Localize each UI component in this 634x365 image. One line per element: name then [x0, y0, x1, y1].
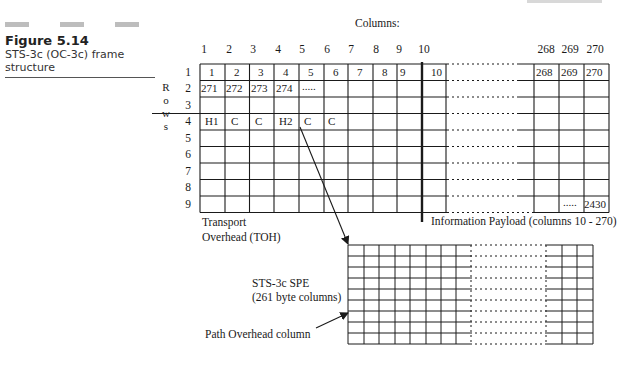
path-overhead-label: Path Overhead column [205, 328, 310, 340]
cell: 3 [258, 66, 264, 78]
arrow-path-overhead [316, 313, 348, 328]
frame-grid [0, 0, 634, 365]
cell: C [304, 115, 311, 127]
cell: 10 [431, 66, 442, 78]
cell: 268 [536, 66, 553, 78]
cell: C [231, 115, 238, 127]
cell: ..... [302, 80, 316, 92]
cell: 274 [276, 82, 293, 94]
payload-label: Information Payload (columns 10 - 270) [431, 215, 617, 227]
toh-label: Transport Overhead (TOH) [202, 215, 281, 245]
cell: 2430 [584, 198, 606, 210]
cell: 1 [209, 66, 215, 78]
cell: 273 [251, 82, 268, 94]
cell: C [328, 115, 335, 127]
cell: 6 [333, 66, 339, 78]
cell: 7 [357, 66, 363, 78]
cell: 8 [382, 66, 388, 78]
cell: 9 [400, 66, 406, 78]
cell: 2 [234, 66, 240, 78]
cell: 5 [308, 66, 314, 78]
cell: 272 [226, 82, 243, 94]
cell: H1 [205, 115, 218, 127]
cell: 269 [561, 66, 578, 78]
cell: C [255, 115, 262, 127]
spe-label: STS-3c SPE (261 byte columns) [252, 276, 341, 304]
cell: ..... [563, 196, 577, 208]
cell: 270 [586, 66, 603, 78]
cell: H2 [279, 115, 292, 127]
cell: 271 [201, 82, 218, 94]
cell: 4 [283, 66, 289, 78]
